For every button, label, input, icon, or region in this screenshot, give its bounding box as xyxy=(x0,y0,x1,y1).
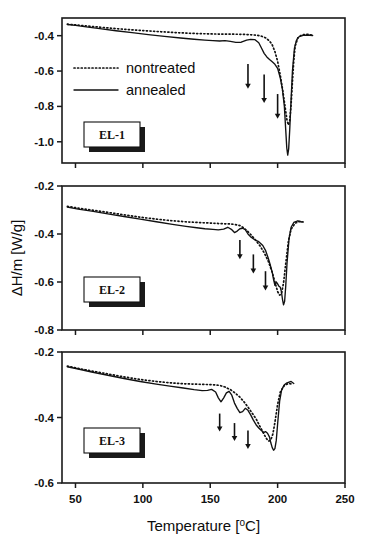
annotation-arrow-3-3 xyxy=(245,431,251,449)
x-tick-label-1: 100 xyxy=(133,493,152,505)
annotation-arrow-3-2 xyxy=(232,423,238,441)
annotation-arrow-1-1 xyxy=(245,64,251,89)
annotation-arrow-1-2 xyxy=(261,75,267,103)
y-axis-title: ΔH/m [W/g] xyxy=(8,220,25,297)
legend: nontreatedannealed xyxy=(74,60,195,98)
y-tick-label-1-3: -1.0 xyxy=(34,136,54,148)
y-tick-label-1-1: -0.6 xyxy=(34,65,54,77)
annotation-arrow-2-1 xyxy=(237,240,243,259)
y-tick-label-2-1: -0.4 xyxy=(34,228,54,240)
arrow-head xyxy=(245,444,251,449)
x-axis-title-main: Temperature [ xyxy=(147,517,240,534)
annotation-arrow-2-3 xyxy=(263,271,269,290)
plot-frame-2 xyxy=(62,186,345,330)
arrow-head xyxy=(251,269,257,274)
plot-frame-3 xyxy=(62,352,345,483)
x-tick-label-2: 150 xyxy=(201,493,220,505)
y-tick-label-3-1: -0.4 xyxy=(34,412,54,424)
y-tick-label-2-0: -0.2 xyxy=(34,180,54,192)
x-tick-label-3: 200 xyxy=(268,493,287,505)
y-tick-label-1-2: -0.8 xyxy=(34,100,54,112)
x-axis-title: Temperature [oC] xyxy=(147,517,260,535)
panel-label-text-2: EL-2 xyxy=(99,283,125,297)
panel-label-3: EL-3 xyxy=(84,428,145,458)
annotation-arrow-1-3 xyxy=(275,94,281,119)
arrow-head xyxy=(217,427,223,432)
x-axis-title-tail: C] xyxy=(245,517,260,534)
y-tick-label-2-3: -0.8 xyxy=(34,324,54,336)
panel-label-text-3: EL-3 xyxy=(99,434,125,448)
arrow-head xyxy=(245,84,251,89)
y-tick-label-3-2: -0.6 xyxy=(34,477,54,489)
panel-label-2: EL-2 xyxy=(84,277,145,307)
panel-el-2: -0.2-0.4-0.6-0.8EL-2 xyxy=(34,180,345,336)
legend-label-annealed: annealed xyxy=(126,82,186,98)
panel-el-3: -0.2-0.4-0.6EL-3 xyxy=(34,346,345,489)
arrow-head xyxy=(232,436,238,441)
x-axis: 50100150200250Temperature [oC] xyxy=(69,493,355,534)
x-tick-label-4: 250 xyxy=(335,493,354,505)
panel-label-text-1: EL-1 xyxy=(99,128,125,142)
arrow-head xyxy=(237,254,243,259)
arrow-head xyxy=(263,285,269,290)
y-tick-label-3-0: -0.2 xyxy=(34,346,54,358)
legend-label-nontreated: nontreated xyxy=(126,60,195,76)
arrow-head xyxy=(261,98,267,103)
y-tick-label-2-2: -0.6 xyxy=(34,276,54,288)
dsc-figure: -0.4-0.6-0.8-1.0EL-1-0.2-0.4-0.6-0.8EL-2… xyxy=(0,0,369,547)
y-tick-label-1-0: -0.4 xyxy=(34,30,54,42)
dsc-chart-svg: -0.4-0.6-0.8-1.0EL-1-0.2-0.4-0.6-0.8EL-2… xyxy=(0,0,369,547)
arrow-head xyxy=(275,114,281,119)
annotation-arrow-3-1 xyxy=(217,414,223,432)
x-tick-label-0: 50 xyxy=(69,493,82,505)
panel-label-1: EL-1 xyxy=(84,122,145,152)
annotation-arrow-2-2 xyxy=(251,254,257,273)
panel-el-1: -0.4-0.6-0.8-1.0EL-1 xyxy=(34,18,345,168)
